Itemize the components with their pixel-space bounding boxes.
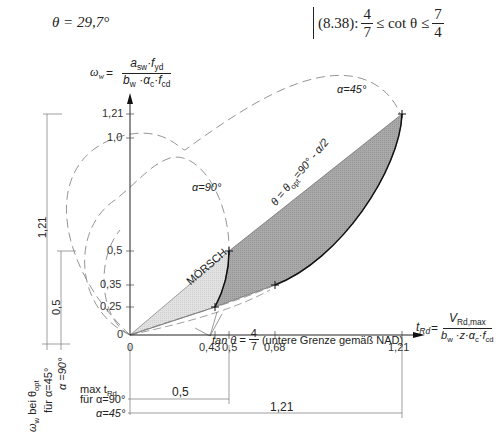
x-axis-fraction: VRd,max bw ·z·αc·fcd [439,312,496,344]
y-tick-025: 0,25 [100,300,121,312]
left-dim-121: 1,21 [36,217,48,238]
alpha45-bottom: α=45° [96,407,125,419]
alpha45-label: α=45° [337,83,366,95]
left-dim-05: 0,5 [50,300,62,315]
x-axis-numerator: VRd,max [443,312,492,329]
theta-opt-region [215,114,402,307]
tan-fraction: 47 [249,327,259,352]
y-axis-numerator: asw·fyd [122,57,171,74]
omega-bei-theta-label: ωw bei θopt [26,380,41,432]
y-tick-121: 1,21 [102,107,123,119]
bottom-dim-05: 0,5 [172,385,189,399]
alpha90-label: α=90° [192,181,221,193]
y-axis-denominator: bw ·αc·fcd [121,74,172,90]
y-tick-0: 0 [117,328,123,340]
y-tick-035: 0,35 [100,278,121,290]
diagram-canvas [0,0,498,434]
y-tick-10: 1,0 [107,131,122,143]
alpha90-left-label: α =90° [56,358,68,390]
y-tick-05: 0,5 [107,244,122,256]
y-axis-label: ωw= asw·fyd bw ·αc·fcd [90,57,172,89]
fuer-alpha45-label: für α=45° [42,368,54,413]
bottom-dim-121: 1,21 [270,400,293,414]
eq-sign: = [106,66,113,80]
omega-symbol: ωw [90,65,104,81]
x-axis-denominator: bw ·z·αc·fcd [439,329,496,345]
x-axis-label: tRd= VRd,max bw ·z·αc·fcd [416,312,496,344]
eq-sign: = [431,321,438,335]
y-axis-fraction: asw·fyd bw ·αc·fcd [121,57,172,89]
x-tick-0: 0 [127,341,133,353]
fuer-alpha90-bottom: für α=90° [80,393,125,405]
tan-theta-label: tan θ = 47 (untere Grenze gemäß NAD) [212,327,403,352]
t-rd-symbol: tRd [416,320,430,336]
